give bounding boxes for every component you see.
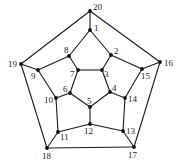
edge-9-8 — [38, 56, 69, 70]
edge-10-9 — [38, 70, 56, 98]
edge-1-2 — [90, 30, 111, 55]
edge-14-13 — [123, 98, 125, 131]
edge-4-5 — [90, 92, 110, 107]
vertex-2 — [109, 53, 113, 57]
vertex-label-11: 11 — [60, 132, 69, 142]
vertex-9 — [36, 68, 40, 72]
edge-19-9 — [21, 64, 38, 70]
vertex-label-14: 14 — [128, 94, 138, 104]
vertex-label-12: 12 — [84, 126, 93, 136]
edge-2-3 — [102, 55, 111, 70]
vertex-19 — [19, 62, 23, 66]
vertex-17 — [132, 145, 136, 149]
vertex-label-4: 4 — [112, 83, 117, 93]
vertex-label-9: 9 — [31, 71, 36, 81]
vertex-label-19: 19 — [8, 59, 18, 69]
vertex-1 — [88, 28, 92, 32]
vertex-18 — [45, 146, 49, 150]
edge-19-20 — [21, 11, 90, 64]
edge-16-15 — [142, 62, 160, 69]
edge-17-18 — [47, 147, 134, 148]
vertex-label-6: 6 — [63, 84, 68, 94]
edge-8-1 — [69, 30, 90, 56]
vertex-label-1: 1 — [94, 23, 99, 33]
vertex-label-7: 7 — [70, 69, 75, 79]
vertex-label-15: 15 — [141, 71, 151, 81]
vertex-label-10: 10 — [44, 95, 54, 105]
edge-11-10 — [56, 98, 58, 132]
vertex-label-2: 2 — [114, 46, 119, 56]
vertex-label-13: 13 — [126, 126, 136, 136]
vertex-label-5: 5 — [87, 96, 92, 106]
edge-20-16 — [90, 11, 160, 62]
dodecahedral-graph-diagram: 1234567891011121314151617181920 — [0, 0, 180, 166]
edge-18-11 — [47, 132, 58, 148]
vertex-label-20: 20 — [93, 2, 103, 12]
vertex-6 — [68, 91, 72, 95]
vertex-labels: 1234567891011121314151617181920 — [8, 2, 174, 161]
vertex-20 — [88, 9, 92, 13]
vertex-label-8: 8 — [64, 45, 69, 55]
vertex-label-3: 3 — [104, 69, 109, 79]
vertex-label-16: 16 — [164, 58, 174, 68]
vertex-13 — [121, 129, 125, 133]
edge-8-7 — [69, 56, 78, 70]
edge-2-15 — [111, 55, 142, 69]
edge-13-12 — [90, 124, 123, 131]
vertex-10 — [54, 96, 58, 100]
vertex-label-18: 18 — [42, 151, 52, 161]
vertex-7 — [76, 68, 80, 72]
vertex-label-17: 17 — [128, 150, 138, 160]
vertex-14 — [123, 96, 127, 100]
vertex-16 — [158, 60, 162, 64]
